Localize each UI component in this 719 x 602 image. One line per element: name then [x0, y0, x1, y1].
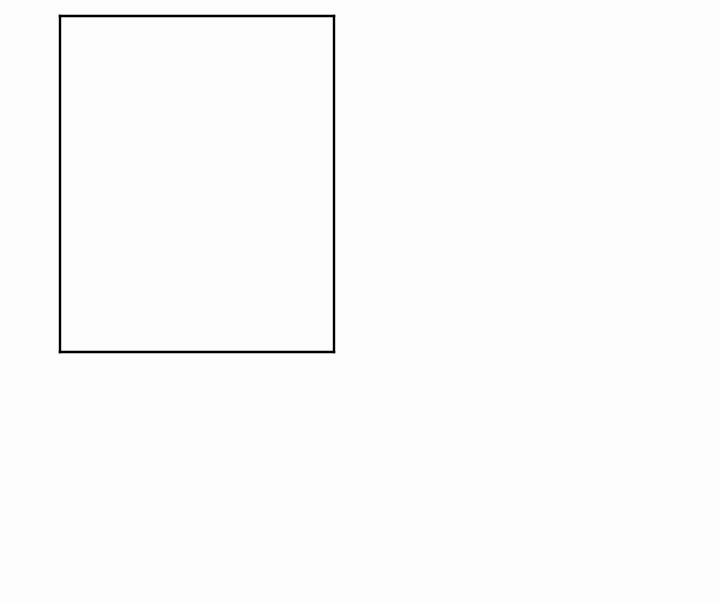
panel-a-group [60, 16, 334, 352]
figure-root [0, 0, 719, 602]
rate-level-function-figure [0, 0, 719, 602]
